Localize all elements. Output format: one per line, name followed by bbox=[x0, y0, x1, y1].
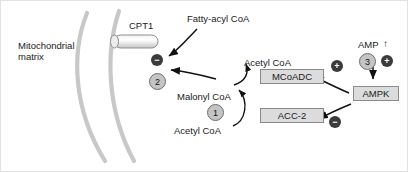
acc2-box[interactable]: ACC-2 bbox=[260, 108, 324, 123]
arrow-acetyl-to-malonyl bbox=[233, 90, 245, 126]
cpt1-transporter-icon bbox=[111, 35, 159, 48]
amp-label: AMP bbox=[358, 39, 379, 50]
inner-membrane bbox=[110, 11, 134, 161]
outer-membrane bbox=[77, 13, 105, 161]
step-2-marker: 2 bbox=[149, 73, 166, 90]
diagram-vector-layer bbox=[1, 1, 408, 172]
arrow-fatty-acyl-to-cpt1 bbox=[169, 29, 197, 56]
cpt1-label: CPT1 bbox=[129, 20, 153, 31]
ampk-box[interactable]: AMPK bbox=[353, 86, 399, 101]
amp-activation-plus-icon: + bbox=[381, 55, 393, 67]
malonyl-coa-label: Malonyl CoA bbox=[177, 91, 231, 102]
step-1-marker: 1 bbox=[207, 104, 224, 121]
fatty-acyl-coa-label: Fatty-acyl CoA bbox=[187, 13, 249, 24]
mcoadc-box[interactable]: MCoADC bbox=[260, 69, 324, 84]
arrow-malonyl-to-cpt1-inhibition bbox=[171, 70, 216, 79]
cpt1-inhibition-minus-icon: − bbox=[151, 54, 163, 66]
acetyl-coa-lower-label: Acetyl CoA bbox=[174, 125, 221, 136]
pathway-diagram: Mitochondrial matrix CPT1 Fatty-acyl CoA… bbox=[0, 0, 408, 172]
acetyl-coa-upper-label: Acetyl CoA bbox=[244, 57, 291, 68]
acc2-inhibition-minus-icon: − bbox=[329, 116, 341, 128]
mcoadc-activation-plus-icon: + bbox=[331, 60, 343, 72]
step-3-marker: 3 bbox=[359, 53, 376, 70]
amp-increase-arrow-icon: ↑ bbox=[383, 38, 388, 49]
mitochondrial-matrix-label: Mitochondrial matrix bbox=[18, 40, 75, 62]
